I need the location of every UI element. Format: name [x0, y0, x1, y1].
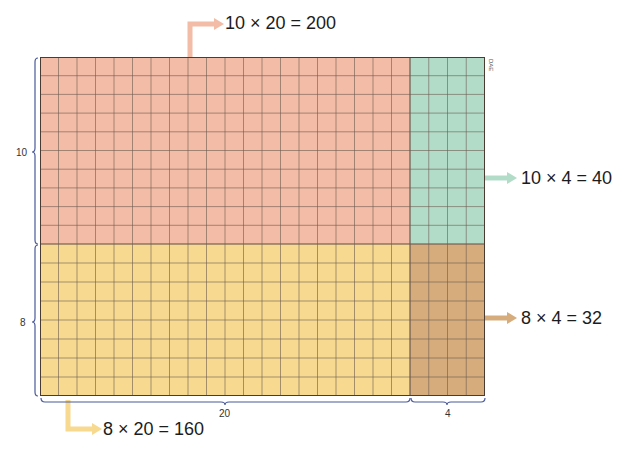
brace-left-8: [32, 245, 38, 396]
label-product-40: 10 × 4 = 40: [521, 168, 612, 189]
arrow-200: [190, 24, 214, 57]
credit-text: DAE: [488, 59, 494, 71]
side-label-10: 10: [16, 147, 27, 158]
arrowhead-40-icon: [507, 172, 517, 184]
arrow-160: [68, 400, 92, 429]
label-product-200: 10 × 20 = 200: [225, 13, 336, 34]
arrowhead-32-icon: [507, 312, 517, 324]
side-label-4: 4: [445, 408, 451, 419]
arrowhead-200-icon: [214, 18, 224, 30]
side-label-8: 8: [20, 317, 26, 328]
arrowhead-160-icon: [92, 423, 102, 435]
label-product-32: 8 × 4 = 32: [521, 308, 602, 329]
label-product-160: 8 × 20 = 160: [103, 419, 204, 440]
brace-left-10: [32, 58, 38, 244]
brace-bottom-20: [41, 398, 410, 405]
side-label-20: 20: [219, 408, 230, 419]
annotations: [0, 0, 621, 449]
brace-bottom-4: [411, 398, 485, 405]
